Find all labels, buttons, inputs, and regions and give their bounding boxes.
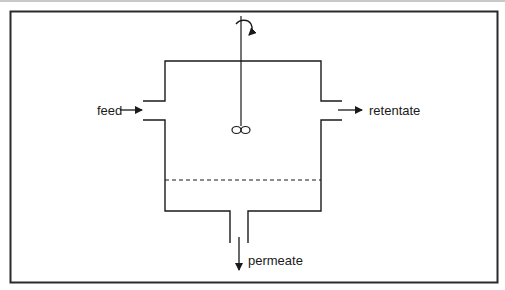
stirred-vessel (143, 61, 342, 243)
vessel-upper-walls (143, 61, 342, 101)
retentate-label: retentate (369, 103, 420, 118)
vessel-lower-left-wall (143, 120, 230, 243)
vessel-lower-right-wall (248, 120, 342, 243)
permeate-label: permeate (248, 253, 303, 268)
diagram-canvas: feed retentate permeate (0, 0, 505, 290)
feed-label: feed (97, 103, 122, 118)
diagram-frame (11, 12, 498, 283)
impeller-icon (232, 127, 250, 134)
rotation-arrow-icon (236, 20, 252, 35)
